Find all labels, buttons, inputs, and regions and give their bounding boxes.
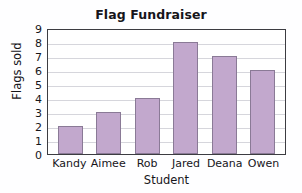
y-tick-label: 8 (20, 38, 42, 49)
bar-deana[interactable] (212, 56, 237, 154)
bar-series (48, 30, 285, 154)
x-tick-label-aimee: Aimee (89, 157, 128, 171)
bar-slot (51, 30, 90, 154)
bar-slot (167, 30, 206, 154)
bar-slot (90, 30, 129, 154)
y-tick-label: 9 (20, 24, 42, 35)
x-tick-label-kandy: Kandy (50, 157, 89, 171)
y-tick-label: 2 (20, 122, 42, 133)
bar-slot (244, 30, 283, 154)
y-tick-label: 1 (20, 136, 42, 147)
bar-aimee[interactable] (96, 112, 121, 154)
plot-area (47, 29, 286, 155)
bar-owen[interactable] (250, 70, 275, 154)
bar-kandy[interactable] (58, 126, 83, 154)
x-axis-tick-labels: KandyAimeeRobJaredDeanaOwen (47, 157, 286, 171)
chart-title: Flag Fundraiser (0, 7, 302, 22)
y-tick-label: 6 (20, 66, 42, 77)
y-tick-label: 7 (20, 52, 42, 63)
x-tick-label-rob: Rob (128, 157, 167, 171)
chart-figure: Flag Fundraiser Flags sold 9876543210 Ka… (0, 0, 302, 193)
y-tick-label: 5 (20, 80, 42, 91)
x-tick-label-jared: Jared (166, 157, 205, 171)
x-tick-label-owen: Owen (244, 157, 283, 171)
y-tick-label: 3 (20, 108, 42, 119)
bar-rob[interactable] (135, 98, 160, 154)
bar-slot (205, 30, 244, 154)
bar-jared[interactable] (173, 42, 198, 154)
x-tick-label-deana: Deana (205, 157, 244, 171)
x-axis-title: Student (47, 173, 286, 187)
bar-slot (128, 30, 167, 154)
y-tick-label: 4 (20, 94, 42, 105)
y-tick-label: 0 (20, 150, 42, 161)
